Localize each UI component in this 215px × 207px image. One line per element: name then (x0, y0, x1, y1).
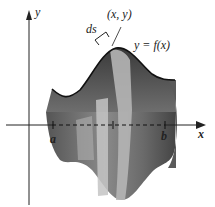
ds-label: ds (86, 23, 97, 35)
figure-graphic (0, 0, 215, 207)
a-label: a (50, 133, 56, 145)
curve-label: y = f(x) (134, 39, 170, 51)
surface-of-revolution-figure: y (x, y) ds y = f(x) a b x (0, 0, 215, 207)
y-axis-label: y (35, 6, 40, 18)
y-axis (26, 10, 32, 205)
x-axis-label: x (198, 128, 204, 140)
ds-bracket (95, 27, 121, 46)
b-label: b (161, 130, 167, 142)
point-label: (x, y) (107, 8, 132, 20)
